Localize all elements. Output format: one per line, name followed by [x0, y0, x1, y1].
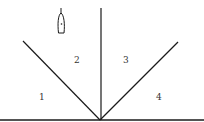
left-diagonal-line — [23, 41, 100, 120]
diagram-canvas: 1 2 3 4 — [0, 0, 204, 122]
region-label-1: 1 — [39, 92, 45, 102]
right-diagonal-line — [100, 42, 178, 120]
region-label-2: 2 — [74, 55, 80, 65]
boat-icon — [58, 8, 64, 33]
region-label-3: 3 — [123, 55, 129, 65]
region-label-4: 4 — [156, 92, 162, 102]
sector-diagram: 1 2 3 4 — [0, 0, 204, 122]
